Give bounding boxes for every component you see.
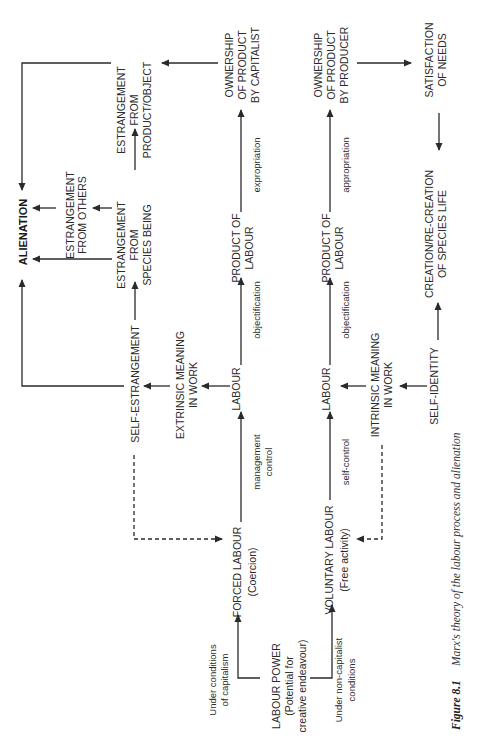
node-labour-capitalist: LABOUR — [230, 367, 242, 411]
svg-text:IN WORK: IN WORK — [187, 362, 199, 408]
svg-text:ALIENATION: ALIENATION — [17, 199, 29, 265]
figure-number: Figure 8.1 — [450, 680, 463, 731]
svg-text:FROM OTHERS: FROM OTHERS — [76, 176, 88, 254]
svg-text:PRODUCT OF: PRODUCT OF — [230, 213, 242, 282]
svg-text:FROM: FROM — [128, 230, 140, 261]
node-satisfaction-needs: SATISFACTION OF NEEDS — [423, 22, 448, 97]
figure-caption-text: Marx's theory of the labour process and … — [450, 432, 463, 667]
edge-product-estrangement-to-alienation — [22, 63, 111, 190]
node-product-capitalist: PRODUCT OF LABOUR — [230, 213, 255, 282]
node-ownership-producer: OWNERSHIP OF PRODUCT BY PRODUCER — [312, 26, 350, 103]
edge-labour-power-to-voluntary — [310, 605, 332, 678]
svg-text:PRODUCT OF: PRODUCT OF — [320, 213, 332, 282]
svg-text:OWNERSHIP: OWNERSHIP — [312, 33, 324, 98]
label-expropriation: expropriation — [251, 138, 262, 193]
edge-dashed-self-estrangement-to-forced — [134, 455, 222, 539]
node-estrangement-species: ESTRANGEMENT FROM SPECIES BEING — [115, 201, 153, 289]
svg-text:ESTRANGEMENT: ESTRANGEMENT — [115, 66, 127, 154]
label-management-control-2: control — [263, 448, 274, 477]
svg-text:PRODUCT/OBJECT: PRODUCT/OBJECT — [141, 61, 153, 158]
label-objectification-capitalist: objectification — [251, 281, 262, 339]
label-objectification-noncapitalist: objectification — [340, 281, 351, 339]
node-estrangement-product: ESTRANGEMENT FROM PRODUCT/OBJECT — [115, 61, 153, 158]
edge-self-estrangement-to-alienation — [22, 280, 124, 386]
labour-process-alienation-diagram: ALIENATION ESTRANGEMENT FROM PRODUCT/OBJ… — [0, 0, 477, 742]
svg-text:LABOUR: LABOUR — [333, 226, 345, 270]
svg-text:LABOUR: LABOUR — [320, 367, 332, 411]
node-extrinsic-meaning: EXTRINSIC MEANING IN WORK — [174, 331, 199, 439]
node-self-identity: SELF-IDENTITY — [428, 347, 440, 425]
svg-text:LABOUR: LABOUR — [243, 226, 255, 270]
svg-text:SELF-ESTRANGEMENT: SELF-ESTRANGEMENT — [129, 325, 141, 443]
svg-text:INTRINSIC MEANING: INTRINSIC MEANING — [369, 333, 381, 437]
svg-text:OF PRODUCT: OF PRODUCT — [325, 30, 337, 100]
svg-text:OF NEEDS: OF NEEDS — [436, 33, 448, 87]
node-product-noncapitalist: PRODUCT OF LABOUR — [320, 213, 345, 282]
svg-text:EXTRINSIC MEANING: EXTRINSIC MEANING — [174, 331, 186, 439]
svg-text:FROM: FROM — [128, 95, 140, 126]
svg-text:OF SPECIES LIFE: OF SPECIES LIFE — [436, 190, 448, 278]
svg-text:IN WORK: IN WORK — [382, 362, 394, 408]
svg-text:ESTRANGEMENT: ESTRANGEMENT — [115, 201, 127, 289]
node-voluntary-labour: VOLUNTARY LABOUR (Free activity) — [323, 505, 350, 615]
label-management-control: management — [251, 434, 262, 490]
label-under-capitalism: Under conditions — [207, 644, 218, 716]
node-self-estrangement: SELF-ESTRANGEMENT — [129, 325, 141, 443]
label-appropriation: appropriation — [340, 137, 351, 192]
svg-text:(Coercion): (Coercion) — [246, 547, 258, 596]
svg-text:SATISFACTION: SATISFACTION — [423, 22, 435, 97]
node-labour-noncapitalist: LABOUR — [320, 367, 332, 411]
svg-text:OWNERSHIP: OWNERSHIP — [223, 33, 235, 98]
label-non-capitalist-2: conditions — [346, 658, 357, 701]
svg-text:SPECIES BEING: SPECIES BEING — [141, 204, 153, 285]
svg-text:OF PRODUCT: OF PRODUCT — [236, 30, 248, 100]
figure-caption: Figure 8.1 Marx's theory of the labour p… — [450, 432, 463, 731]
node-ownership-capitalist: OWNERSHIP OF PRODUCT BY CAPITALIST — [223, 26, 261, 103]
label-non-capitalist: Under non-capitalist — [333, 637, 344, 722]
svg-text:creative endeavour): creative endeavour) — [296, 640, 308, 733]
svg-text:VOLUNTARY LABOUR: VOLUNTARY LABOUR — [323, 505, 335, 615]
node-intrinsic-meaning: INTRINSIC MEANING IN WORK — [369, 333, 394, 437]
svg-text:LABOUR: LABOUR — [230, 367, 242, 411]
edge-dashed-intrinsic-to-voluntary — [357, 445, 382, 539]
svg-text:FORCED LABOUR: FORCED LABOUR — [231, 526, 243, 617]
node-alienation: ALIENATION — [17, 199, 29, 265]
svg-text:BY PRODUCER: BY PRODUCER — [338, 26, 350, 103]
svg-text:(Potential for: (Potential for — [283, 656, 295, 716]
svg-text:(Free activity): (Free activity) — [338, 528, 350, 592]
node-forced-labour: FORCED LABOUR (Coercion) — [231, 526, 258, 617]
svg-text:CREATION/RE-CREATION: CREATION/RE-CREATION — [423, 170, 435, 298]
edge-labour-power-to-forced — [238, 615, 260, 678]
node-estrangement-others: ESTRANGEMENT FROM OTHERS — [64, 171, 88, 259]
svg-text:BY CAPITALIST: BY CAPITALIST — [249, 26, 261, 103]
label-self-control: self-control — [340, 439, 351, 485]
node-creation-species-life: CREATION/RE-CREATION OF SPECIES LIFE — [423, 170, 448, 298]
svg-text:LABOUR POWER: LABOUR POWER — [270, 643, 282, 729]
svg-text:SELF-IDENTITY: SELF-IDENTITY — [428, 347, 440, 425]
svg-text:ESTRANGEMENT: ESTRANGEMENT — [64, 171, 76, 259]
node-labour-power: LABOUR POWER (Potential for creative end… — [270, 640, 308, 733]
label-under-capitalism-2: of capitalism — [219, 654, 230, 707]
